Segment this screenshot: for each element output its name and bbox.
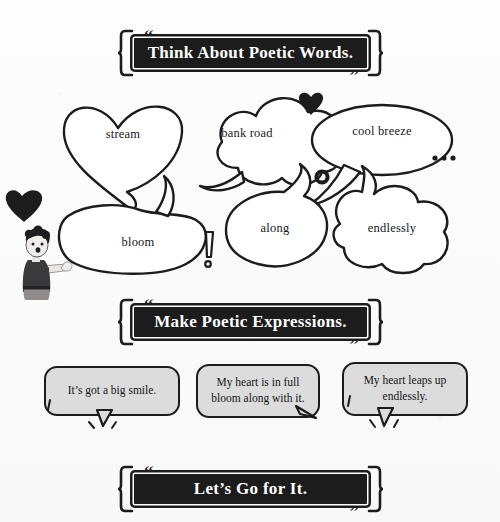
word-label-along: along xyxy=(261,221,290,236)
sentence-bubble-1: It’s got a big smile. xyxy=(44,366,180,416)
sentence-text: It’s got a big smile. xyxy=(61,383,163,399)
bubble-shapes xyxy=(0,80,500,300)
banner-make-poetic-expressions: “ ” Make Poetic Expressions. xyxy=(118,303,383,341)
sentence-text: My heart is in full bloom along with it. xyxy=(198,375,318,406)
heart-solid-icon-left xyxy=(6,190,42,222)
banner-title: Think About Poetic Words. xyxy=(148,43,354,64)
word-label-endlessly: endlessly xyxy=(368,221,416,236)
character-illustration xyxy=(12,222,74,300)
sentence-bubble-2: My heart is in full bloom along with it. xyxy=(196,364,320,418)
sentence-text: My heart leaps up endlessly. xyxy=(344,373,466,404)
bubble-tail-bloom xyxy=(156,176,174,216)
word-label-bank-road: bank road xyxy=(221,126,272,141)
word-label-stream: stream xyxy=(106,127,141,142)
bubble-shape-cool-breeze xyxy=(312,105,452,175)
word-label-cool-breeze: cool breeze xyxy=(352,124,411,139)
banner-bar: Think About Poetic Words. xyxy=(130,34,371,72)
banner-think-about-poetic-words: “ ” Think About Poetic Words. xyxy=(118,34,383,72)
word-bubble-field: stream bank road cool breeze bloom along… xyxy=(0,80,500,300)
bubble-tail-bank-road xyxy=(200,172,244,190)
banner-title: Make Poetic Expressions. xyxy=(154,312,346,333)
exclamation-outline-icon xyxy=(205,232,213,267)
sentence-bubble-row: It’s got a big smile. My heart is in ful… xyxy=(0,352,500,452)
three-dots-icon xyxy=(432,155,455,160)
sentence-bubble-3: My heart leaps up endlessly. xyxy=(342,362,468,416)
ring-outline-icon xyxy=(316,171,327,182)
banner-lets-go-for-it: “ ” Let’s Go for It. xyxy=(118,470,383,508)
word-label-bloom: bloom xyxy=(122,235,155,250)
banner-bar: Make Poetic Expressions. xyxy=(130,303,371,341)
banner-bar: Let’s Go for It. xyxy=(130,470,371,508)
banner-title: Let’s Go for It. xyxy=(194,479,307,500)
